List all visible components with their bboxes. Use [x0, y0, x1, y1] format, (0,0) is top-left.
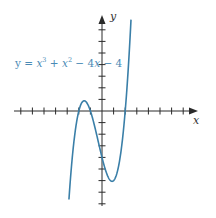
graph-canvas: x y	[0, 0, 216, 218]
y-axis-arrow-icon	[99, 15, 106, 24]
cubic-curve	[69, 20, 131, 200]
eq-const: − 4	[100, 57, 122, 69]
x-axis-label: x	[193, 114, 200, 127]
eq-minus-4: − 4	[72, 57, 94, 69]
eq-lhs: y =	[15, 57, 36, 69]
eq-plus: +	[46, 57, 61, 69]
y-axis-label: y	[109, 10, 117, 23]
axes: x y	[14, 10, 200, 206]
equation-label: y = x3 + x2 − 4x − 4	[15, 56, 122, 69]
